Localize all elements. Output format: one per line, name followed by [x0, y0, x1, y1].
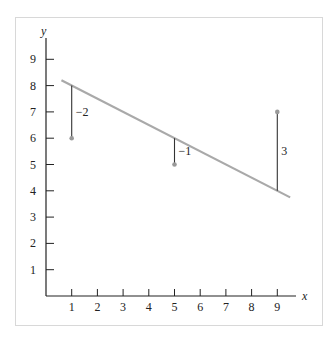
y-tick-label: 5	[30, 158, 36, 172]
y-tick-label: 1	[30, 263, 36, 277]
y-tick-label: 7	[30, 105, 36, 119]
x-tick-label: 3	[120, 300, 126, 314]
residual-label: −2	[76, 105, 89, 119]
data-point	[172, 162, 177, 167]
y-tick-label: 2	[30, 236, 36, 250]
data-point	[275, 110, 280, 115]
x-tick-label: 6	[197, 300, 203, 314]
data-point	[69, 136, 74, 141]
residual-label: −1	[179, 144, 192, 158]
residual-label: 3	[281, 144, 287, 158]
x-tick-label: 2	[94, 300, 100, 314]
chart: xy123456789123456789 −2−13	[0, 0, 335, 338]
x-tick-label: 9	[274, 300, 280, 314]
y-tick-label: 4	[30, 184, 36, 198]
chart-frame	[16, 18, 323, 326]
y-tick-label: 3	[30, 210, 36, 224]
y-tick-label: 6	[30, 131, 36, 145]
x-tick-label: 8	[249, 300, 255, 314]
y-tick-label: 8	[30, 79, 36, 93]
x-tick-label: 7	[223, 300, 229, 314]
x-tick-label: 5	[172, 300, 178, 314]
x-axis-label: x	[301, 289, 308, 303]
x-tick-label: 1	[69, 300, 75, 314]
y-tick-label: 9	[30, 52, 36, 66]
x-tick-label: 4	[146, 300, 152, 314]
y-axis-label: y	[40, 24, 47, 38]
